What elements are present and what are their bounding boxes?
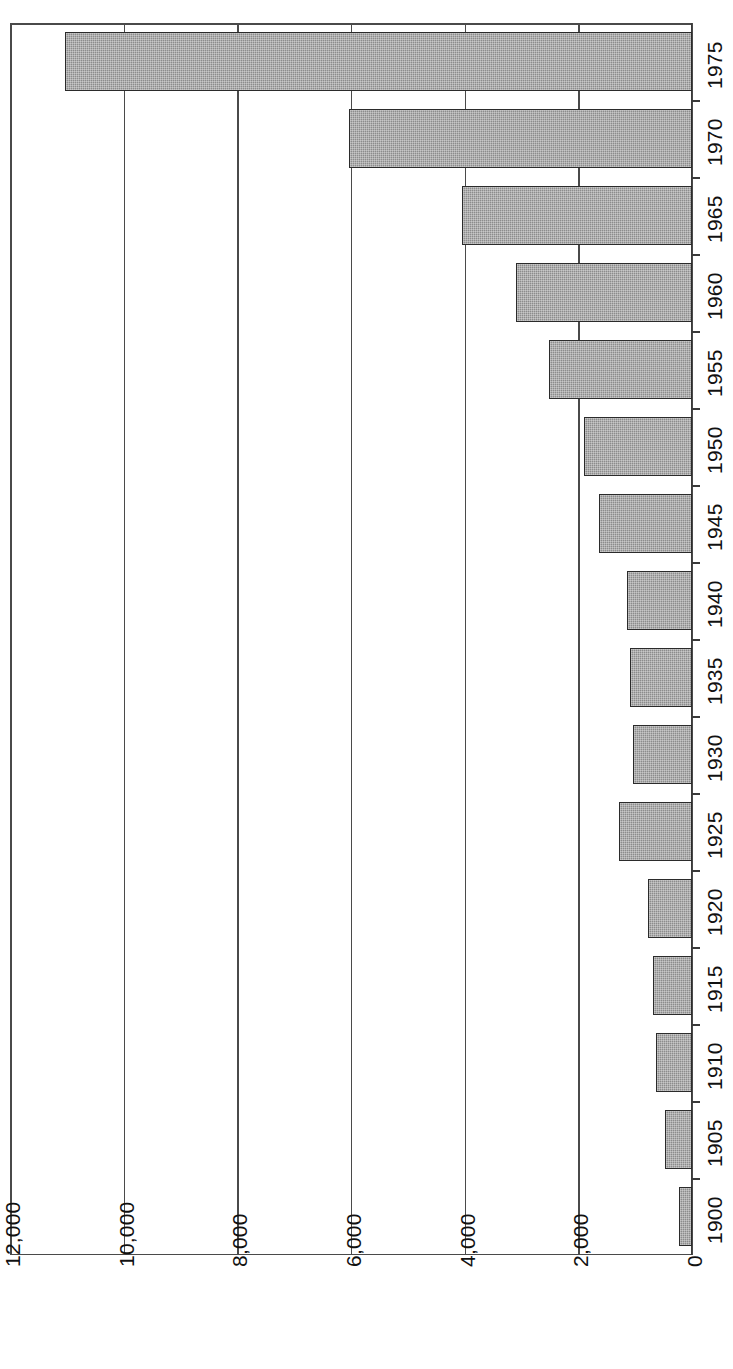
category-tick-12 <box>691 947 700 949</box>
category-label-1905: 1905 <box>704 1119 725 1167</box>
value-tick-label-2000: 2,000 <box>570 1213 591 1267</box>
bar-1975 <box>65 32 692 90</box>
category-label-1975: 1975 <box>704 41 725 89</box>
category-label-1930: 1930 <box>704 734 725 782</box>
category-tick-9 <box>691 716 700 718</box>
value-tick-label-12000: 12,000 <box>2 1202 23 1267</box>
gridline-10000 <box>124 23 125 1255</box>
gridline-8000 <box>237 23 238 1255</box>
bar-1950 <box>584 417 692 475</box>
gridline-6000 <box>351 23 352 1255</box>
category-label-1925: 1925 <box>704 811 725 859</box>
category-tick-6 <box>691 485 700 487</box>
category-tick-11 <box>691 870 700 872</box>
category-label-1970: 1970 <box>704 118 725 166</box>
category-label-1900: 1900 <box>704 1196 725 1244</box>
category-tick-15 <box>691 1178 700 1180</box>
category-label-1940: 1940 <box>704 580 725 628</box>
value-tick-label-4000: 4,000 <box>457 1213 478 1267</box>
bar-1900 <box>679 1187 692 1245</box>
bar-1970 <box>349 109 692 167</box>
category-tick-14 <box>691 1101 700 1103</box>
plot-area <box>10 23 692 1255</box>
category-label-1950: 1950 <box>704 426 725 474</box>
value-tick-label-8000: 8,000 <box>229 1213 250 1267</box>
category-tick-3 <box>691 254 700 256</box>
value-tick-label-10000: 10,000 <box>116 1202 137 1267</box>
bar-1955 <box>549 340 692 398</box>
bar-chart-figure: 1900190519101915192019251930193519401945… <box>0 0 733 1369</box>
value-tick-label-6000: 6,000 <box>343 1213 364 1267</box>
value-tick-label-0: 0 <box>684 1255 705 1267</box>
category-tick-13 <box>691 1024 700 1026</box>
gridline-12000 <box>10 23 11 1255</box>
bar-1945 <box>599 494 692 552</box>
category-label-1910: 1910 <box>704 1042 725 1090</box>
bar-1920 <box>648 879 692 937</box>
category-label-1935: 1935 <box>704 657 725 705</box>
category-label-1920: 1920 <box>704 888 725 936</box>
category-tick-2 <box>691 177 700 179</box>
category-label-1955: 1955 <box>704 349 725 397</box>
bar-1915 <box>653 956 692 1014</box>
category-label-1960: 1960 <box>704 272 725 320</box>
bar-1925 <box>619 802 692 860</box>
category-label-1945: 1945 <box>704 503 725 551</box>
category-label-1965: 1965 <box>704 195 725 243</box>
category-tick-7 <box>691 562 700 564</box>
bar-1930 <box>633 725 692 783</box>
bar-1960 <box>516 263 692 321</box>
category-label-1915: 1915 <box>704 965 725 1013</box>
category-tick-1 <box>691 100 700 102</box>
category-tick-10 <box>691 793 700 795</box>
category-tick-5 <box>691 408 700 410</box>
bar-1910 <box>656 1033 692 1091</box>
bar-1905 <box>665 1110 692 1168</box>
bar-1940 <box>627 571 692 629</box>
bar-1935 <box>630 648 692 706</box>
category-tick-8 <box>691 639 700 641</box>
category-tick-4 <box>691 331 700 333</box>
bar-1965 <box>462 186 692 244</box>
